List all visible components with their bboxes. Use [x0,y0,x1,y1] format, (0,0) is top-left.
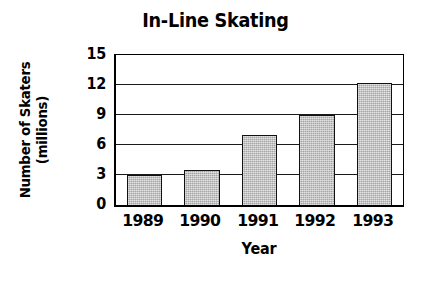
x-tick-label: 1993 [345,211,400,231]
bar [299,115,335,205]
x-axis-title: Year [124,240,394,258]
y-axis-title-line-2: (millions) [34,62,51,199]
x-tick-label: 1991 [230,211,285,231]
x-tick-label: 1989 [115,211,170,231]
x-tick-label: 1990 [173,211,228,231]
plot-area [114,54,404,207]
bar [127,175,163,205]
y-axis-title-line-1: Number of Skaters [17,62,34,199]
y-tick-label: 3 [66,166,106,182]
bar [242,135,278,205]
x-axis-tick-labels: 19891990199119921993 [114,211,404,237]
y-tick-label: 0 [66,196,106,212]
y-axis-tick-labels: 03691215 [62,0,106,291]
y-tick-label: 9 [66,106,106,122]
y-axis-title: Number of Skaters (millions) [8,40,60,220]
x-tick-label: 1992 [288,211,343,231]
bar [357,83,393,205]
y-tick-label: 12 [66,76,106,92]
chart-figure: In-Line Skating Number of Skaters (milli… [0,0,431,291]
bar-series [116,55,403,205]
y-tick-label: 15 [66,46,106,62]
y-tick-label: 6 [66,136,106,152]
bar [184,170,220,205]
